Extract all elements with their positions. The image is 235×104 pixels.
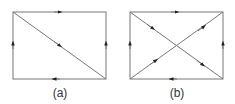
panel-b-label: (b) (157, 86, 197, 100)
arrow-down-right-icon (197, 61, 203, 65)
panel-a-graph (13, 12, 106, 79)
diagram-canvas (0, 0, 235, 104)
arrow-down-right-icon (147, 24, 153, 28)
arrow-down-right-icon (54, 42, 60, 46)
arrow-up-right-icon (150, 60, 156, 64)
arrow-up-right-icon (198, 27, 204, 31)
panel-b-graph (130, 12, 223, 79)
panel-a-label: (a) (40, 86, 80, 100)
